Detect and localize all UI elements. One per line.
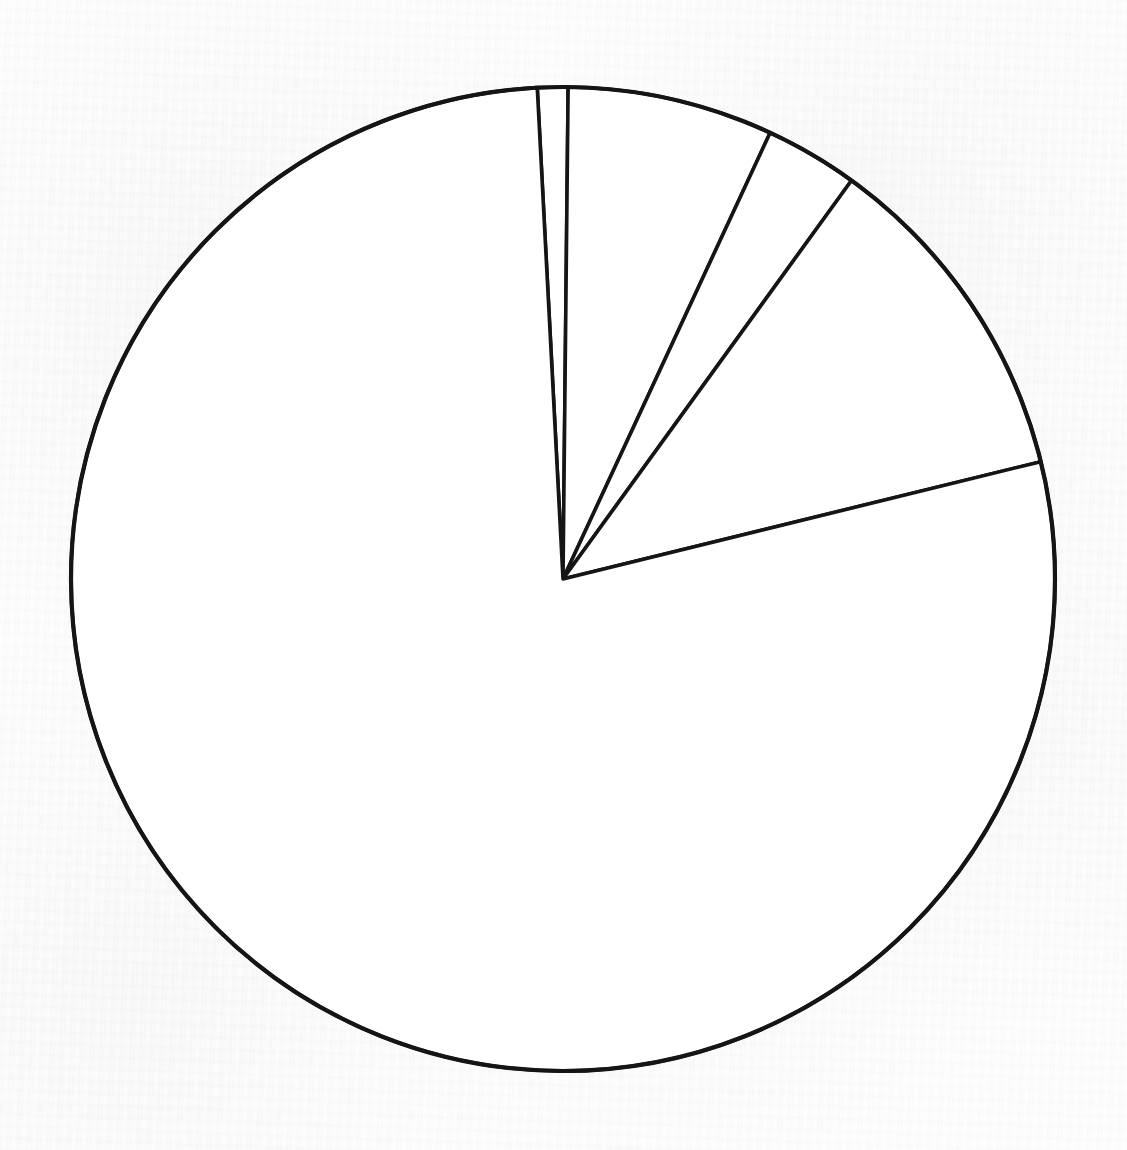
pie-chart <box>0 0 1127 1150</box>
pie-slices-group <box>71 87 1055 1071</box>
figure-page <box>0 0 1127 1150</box>
